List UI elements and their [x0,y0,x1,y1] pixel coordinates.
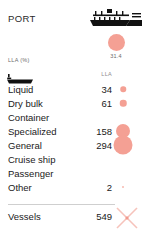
row-label: Passenger [8,168,53,179]
ship-icon-small [7,71,37,82]
total-row: Vessels 549 [0,210,148,226]
row-value: 2 [62,182,112,193]
table-row[interactable]: Other 2 [0,180,148,194]
table-row[interactable]: Liquid 34 [0,82,148,96]
row-value: 158 [62,126,112,137]
row-label: Cruise ship [8,154,56,165]
cross-icon [114,205,140,231]
row-bubble-cell [112,138,148,152]
vessel-type-table: Liquid 34 Dry bulk 61 Container Speciali… [0,82,148,194]
page-title: PORT [8,13,36,24]
legend-bubble-value: 31.4 [90,53,142,59]
row-value: 61 [62,98,112,109]
row-label: Liquid [8,84,33,95]
total-divider [8,204,115,205]
row-value: 34 [62,84,112,95]
row-label: Other [8,182,32,193]
row-bubble-cell [112,96,148,110]
row-value: 294 [62,140,112,151]
row-bubble [120,100,127,107]
row-label: General [8,140,42,151]
row-label: Container [8,112,49,123]
table-row[interactable]: Dry bulk 61 [0,96,148,110]
table-row[interactable]: Cruise ship [0,152,148,166]
table-row[interactable]: General 294 [0,138,148,152]
column-header-lla: LLA [86,71,112,77]
port-vessel-card: PORT [0,0,148,237]
table-row[interactable]: Passenger [0,166,148,180]
row-bubble-cell [112,180,148,194]
legend-bubble-shape [108,34,125,51]
total-label: Vessels [8,211,41,222]
total-value: 549 [62,211,112,222]
row-label: Specialized [8,126,57,137]
ship-icon [90,6,142,28]
legend-reference-bubble: 31.4 [90,34,142,59]
unit-label: LLA (%) [8,57,30,63]
row-bubble-cell [112,110,148,124]
row-bubble [120,86,126,92]
table-row[interactable]: Container [0,110,148,124]
row-bubble-cell [112,82,148,96]
row-bubble-cell [112,166,148,180]
row-bubble-cell [112,152,148,166]
card-header: PORT [0,0,148,36]
row-label: Dry bulk [8,98,43,109]
row-bubble [122,186,124,188]
